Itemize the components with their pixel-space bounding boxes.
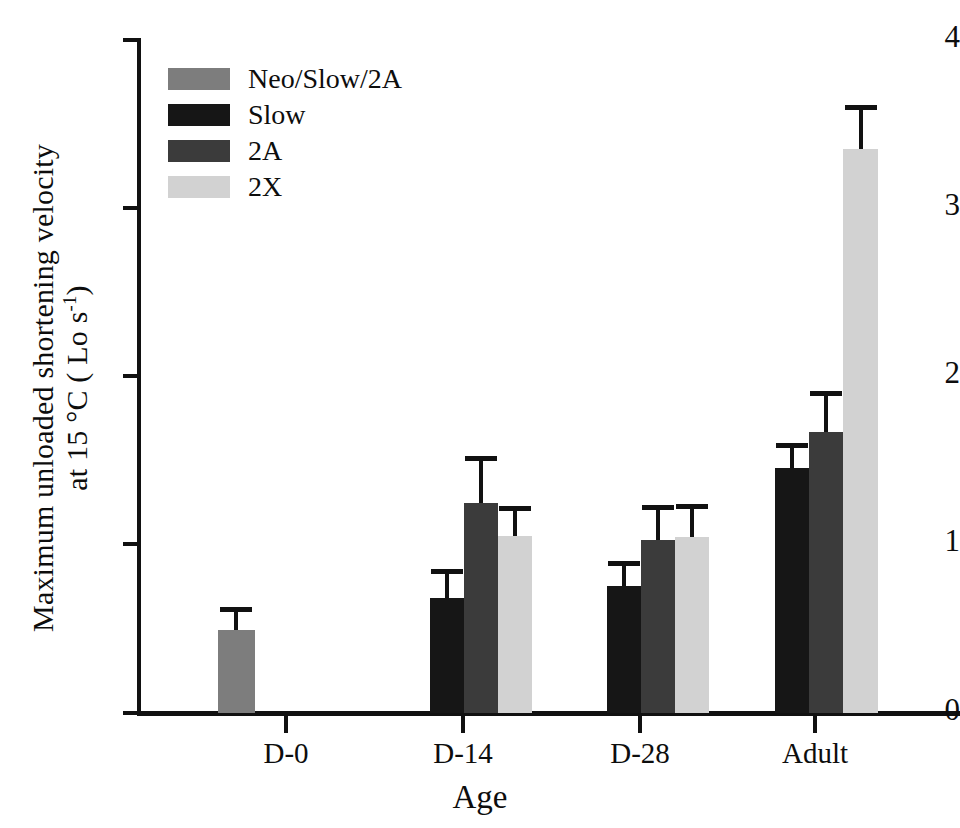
error-bar-stem-d-14-2a [479,459,483,503]
y-tick-mark-0 [123,711,138,715]
x-tick-mark-d-14 [461,716,465,733]
error-bar-stem-d-28-2a [656,508,660,540]
error-bar-stem-adult-2x [859,108,863,149]
error-bar-cap-d-28-2x [676,504,708,509]
bar-d-28-2x [675,537,709,713]
bar-adult-slow [775,468,809,713]
bar-chart-figure: Maximum unloaded shortening velocity at … [0,0,960,828]
error-bar-cap-d-0-neo-slow-2a [220,607,252,612]
bar-adult-2x [843,149,878,713]
legend-item-2x: 2X [168,170,498,204]
y-axis-title: Maximum unloaded shortening velocity at … [25,28,95,748]
error-bar-cap-d-14-slow [431,569,463,574]
bar-adult-2a [809,432,843,713]
y-axis-title-line-2-mid: °C ( Lo s [60,311,93,422]
error-bar-stem-d-14-2x [513,509,517,536]
y-tick-mark-2 [123,374,138,378]
y-axis-title-exponent: -1 [59,296,80,312]
x-tick-label-d-28: D-28 [570,739,710,768]
legend-item-2a: 2A [168,134,498,168]
x-tick-label-d-14: D-14 [393,739,533,768]
error-bar-stem-adult-slow [790,446,794,468]
error-bar-stem-d-28-slow [622,564,626,586]
error-bar-cap-d-28-slow [608,561,640,566]
error-bar-cap-d-14-2a [465,456,497,461]
legend-label-2a: 2A [248,137,282,165]
bar-d-0-neo-slow-2a [218,630,255,713]
legend-swatch-2x [168,176,230,198]
legend-swatch-slow [168,104,230,126]
y-tick-mark-1 [123,542,138,546]
legend: Neo/Slow/2A Slow 2A 2X [168,62,498,206]
y-axis-title-line-1: Maximum unloaded shortening velocity [26,144,61,632]
bar-d-14-2a [464,503,498,713]
legend-item-slow: Slow [168,98,498,132]
x-tick-label-adult: Adult [745,739,885,768]
x-tick-label-d-0: D-0 [216,739,356,768]
error-bar-cap-d-14-2x [499,506,531,511]
error-bar-stem-d-28-2x [690,507,694,537]
legend-label-slow: Slow [248,101,306,129]
error-bar-stem-d-14-slow [445,572,449,598]
legend-label-neo-slow-2a: Neo/Slow/2A [248,65,402,93]
bar-d-28-2a [641,540,675,713]
x-tick-mark-d-28 [638,716,642,733]
legend-swatch-neo-slow-2a [168,68,230,90]
legend-swatch-2a [168,140,230,162]
bar-d-28-slow [607,586,641,713]
error-bar-stem-d-0-neo-slow-2a [234,610,238,630]
error-bar-cap-adult-2a [810,391,842,396]
error-bar-cap-adult-slow [776,443,808,448]
error-bar-cap-adult-2x [845,105,877,110]
x-tick-mark-d-0 [284,716,288,733]
x-tick-mark-adult [813,716,817,733]
error-bar-stem-adult-2a [824,394,828,432]
bar-d-14-2x [498,536,532,713]
bar-d-14-slow [430,598,464,713]
y-tick-mark-4 [123,38,138,42]
error-bar-cap-d-28-2a [642,505,674,510]
y-axis-title-line-2: at 15 °C ( Lo s-1) [60,285,95,490]
y-axis-title-line-2-suffix: ) [60,285,93,295]
legend-item-neo-slow-2a: Neo/Slow/2A [168,62,498,96]
y-tick-mark-3 [123,206,138,210]
y-axis-title-line-2-prefix: at 15 [60,423,93,491]
x-axis-title: Age [0,781,960,814]
legend-label-2x: 2X [248,173,282,201]
